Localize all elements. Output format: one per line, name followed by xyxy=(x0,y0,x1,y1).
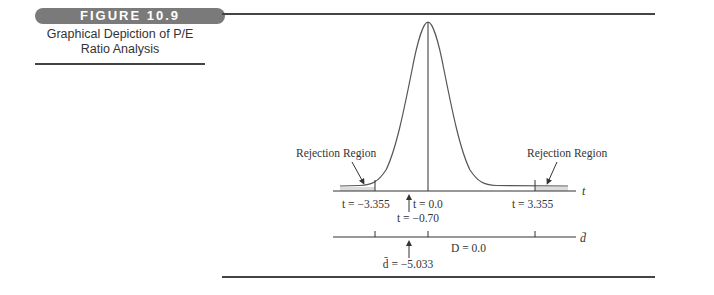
left-region-arrow xyxy=(352,162,363,182)
t-observed-label: t = −0.70 xyxy=(397,212,439,224)
d-axis-label: d̄ xyxy=(580,231,587,245)
t-left-critical-label: t = −3.355 xyxy=(342,198,390,210)
d-center-label: D = 0.0 xyxy=(451,242,486,254)
right-rejection-label: Rejection Region xyxy=(527,147,607,160)
bell-curve xyxy=(340,22,568,186)
t-distribution-diagram: t Rejection Region Rejection Region t = … xyxy=(0,0,714,295)
t-right-critical-label: t = 3.355 xyxy=(512,198,554,210)
right-region-arrow xyxy=(548,162,557,182)
t-axis-label: t xyxy=(582,184,586,198)
left-rejection-label: Rejection Region xyxy=(296,147,376,160)
d-observed-label: d̄ = −5.033 xyxy=(383,257,434,270)
bottom-rule xyxy=(222,276,655,278)
t-center-label: t = 0.0 xyxy=(413,198,443,210)
